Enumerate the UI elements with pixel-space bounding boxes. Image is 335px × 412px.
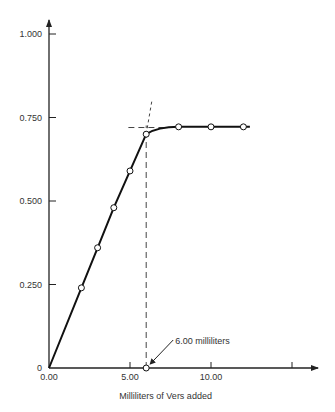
data-point bbox=[208, 124, 214, 130]
y-tick-label: 0.750 bbox=[19, 113, 42, 123]
data-point bbox=[176, 124, 182, 130]
annotation-arrow bbox=[150, 340, 173, 364]
x-tick-label: 5.00 bbox=[121, 372, 139, 382]
data-point bbox=[240, 124, 246, 130]
annotation-label: 6.00 milliliters bbox=[175, 336, 230, 346]
labels: 00.2500.5000.7501.0000.005.0010.00Millil… bbox=[19, 29, 230, 401]
endpoint-marker bbox=[143, 365, 149, 371]
y-tick-label: 1.000 bbox=[19, 29, 42, 39]
x-tick-label: 10.00 bbox=[200, 372, 223, 382]
y-tick-label: 0.500 bbox=[19, 196, 42, 206]
extrapolation-guide bbox=[146, 101, 152, 134]
x-axis-title: Milliliters of Vers added bbox=[119, 391, 212, 401]
data-point bbox=[95, 245, 101, 251]
data-point bbox=[143, 131, 149, 137]
data-point bbox=[78, 285, 84, 291]
data-point bbox=[127, 168, 133, 174]
guides bbox=[128, 101, 165, 368]
series-line bbox=[49, 127, 250, 368]
titration-chart: 00.2500.5000.7501.0000.005.0010.00Millil… bbox=[0, 0, 335, 412]
data-point bbox=[111, 205, 117, 211]
x-tick-label: 0.00 bbox=[40, 372, 58, 382]
series bbox=[49, 124, 250, 371]
axes bbox=[49, 20, 318, 368]
y-tick-label: 0.250 bbox=[19, 280, 42, 290]
ticks bbox=[49, 34, 292, 368]
